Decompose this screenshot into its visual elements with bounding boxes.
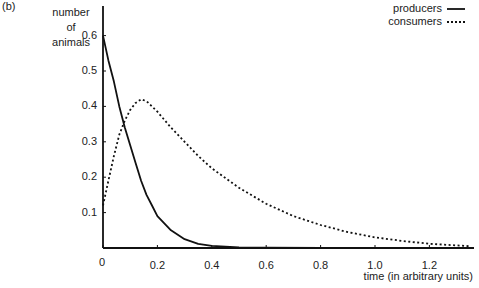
x-tick-label: 0.6 bbox=[251, 259, 281, 271]
y-tick-label: 0.2 bbox=[67, 170, 97, 182]
x-axis-label: time (in arbitrary units) bbox=[364, 270, 473, 282]
y-tick-label: 0.5 bbox=[67, 64, 97, 76]
y-tick-label: 0.3 bbox=[67, 135, 97, 147]
y-tick-label: 0.1 bbox=[67, 206, 97, 218]
y-tick-label: 0.4 bbox=[67, 99, 97, 111]
x-tick-label: 0.2 bbox=[142, 259, 172, 271]
x-tick-label: 0.8 bbox=[306, 259, 336, 271]
series-producers bbox=[103, 36, 470, 248]
x-tick-label: 0 bbox=[87, 256, 117, 268]
series-consumers bbox=[103, 99, 470, 246]
x-tick-label: 0.4 bbox=[197, 259, 227, 271]
y-tick-label: 0.6 bbox=[67, 29, 97, 41]
